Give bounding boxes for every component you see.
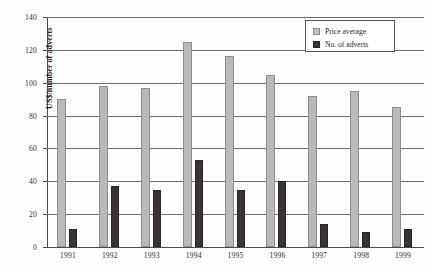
x-tick-label-1998: 1998 bbox=[341, 251, 381, 260]
x-tick-label-1992: 1992 bbox=[90, 251, 130, 260]
bar-price-average-1999 bbox=[392, 107, 401, 247]
x-tick-label-1994: 1994 bbox=[174, 251, 214, 260]
chart-legend: Price average No. of adverts bbox=[305, 20, 395, 52]
legend-item-price-average: Price average bbox=[313, 25, 394, 37]
bar-no-of-adverts-1995 bbox=[237, 190, 245, 248]
y-tick-label-60: 60 bbox=[7, 144, 37, 153]
y-tick-label-0: 0 bbox=[7, 243, 37, 252]
y-tick-label-120: 120 bbox=[7, 45, 37, 54]
bar-no-of-adverts-1997 bbox=[320, 224, 328, 247]
y-tick-label-100: 100 bbox=[7, 78, 37, 87]
bar-price-average-1994 bbox=[183, 42, 192, 247]
bar-no-of-adverts-1992 bbox=[111, 186, 119, 247]
x-tick-label-1999: 1999 bbox=[383, 251, 423, 260]
x-tick-label-1993: 1993 bbox=[132, 251, 172, 260]
legend-swatch-price-average bbox=[313, 28, 320, 35]
bar-price-average-1992 bbox=[99, 86, 108, 247]
bar-group-1995 bbox=[225, 17, 267, 247]
x-tick-label-1995: 1995 bbox=[216, 251, 256, 260]
bar-no-of-adverts-1991 bbox=[69, 229, 77, 247]
bar-price-average-1995 bbox=[225, 56, 234, 247]
bar-chart: 020406080100120140 199119921993199419951… bbox=[0, 0, 431, 272]
bar-no-of-adverts-1998 bbox=[362, 232, 370, 247]
bar-group-1993 bbox=[141, 17, 183, 247]
bar-no-of-adverts-1999 bbox=[404, 229, 412, 247]
y-tick-label-80: 80 bbox=[7, 111, 37, 120]
bar-group-1996 bbox=[266, 17, 308, 247]
legend-label-no-of-adverts: No. of adverts bbox=[325, 40, 368, 49]
bar-no-of-adverts-1994 bbox=[195, 160, 203, 247]
x-tick-label-1997: 1997 bbox=[299, 251, 339, 260]
legend-item-no-of-adverts: No. of adverts bbox=[313, 38, 394, 50]
y-tick-mark-0 bbox=[43, 247, 47, 248]
y-tick-label-40: 40 bbox=[7, 177, 37, 186]
bar-no-of-adverts-1996 bbox=[278, 181, 286, 247]
bar-group-1999 bbox=[392, 17, 431, 247]
bar-price-average-1993 bbox=[141, 88, 150, 247]
x-tick-label-1991: 1991 bbox=[48, 251, 88, 260]
bar-price-average-1996 bbox=[266, 75, 275, 248]
y-axis-label: US$/number of adverts bbox=[45, 0, 54, 109]
gridline-0 bbox=[47, 247, 424, 248]
y-tick-mark-80 bbox=[43, 116, 47, 117]
y-tick-mark-20 bbox=[43, 214, 47, 215]
bar-price-average-1997 bbox=[308, 96, 317, 247]
bar-group-1994 bbox=[183, 17, 225, 247]
y-tick-label-140: 140 bbox=[7, 13, 37, 22]
bar-price-average-1998 bbox=[350, 91, 359, 247]
bar-group-1991 bbox=[57, 17, 99, 247]
bar-group-1992 bbox=[99, 17, 141, 247]
y-tick-mark-40 bbox=[43, 181, 47, 182]
y-tick-mark-60 bbox=[43, 148, 47, 149]
bar-no-of-adverts-1993 bbox=[153, 190, 161, 247]
legend-label-price-average: Price average bbox=[325, 27, 366, 36]
y-tick-label-20: 20 bbox=[7, 210, 37, 219]
x-tick-label-1996: 1996 bbox=[257, 251, 297, 260]
legend-swatch-no-of-adverts bbox=[313, 41, 320, 48]
bar-price-average-1991 bbox=[57, 99, 66, 247]
